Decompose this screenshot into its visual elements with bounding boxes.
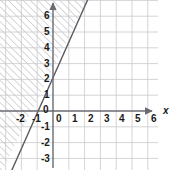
ytick-label--2: -2 [41,138,50,148]
ytick-label--1: -1 [41,122,50,132]
xtick-label-5: 5 [135,114,141,124]
ytick-label-6: 6 [44,11,50,21]
xtick-label-2: 2 [88,114,94,124]
ytick-label-5: 5 [44,27,50,37]
coordinate-plane-svg [0,0,172,174]
ytick-label-1: 1 [44,90,50,100]
graph-canvas: -2 -1 0 1 2 3 4 5 6 6 5 4 3 2 1 0 -1 -2 … [0,0,172,174]
ytick-label-0: 0 [43,105,49,115]
xtick-label-4: 4 [119,114,125,124]
xtick-label--1: -1 [32,114,41,124]
xtick-label-0: 0 [56,114,62,124]
xtick-label--2: -2 [16,114,25,124]
ytick-label-2: 2 [44,74,50,84]
xtick-label-6: 6 [151,114,157,124]
xtick-label-1: 1 [72,114,78,124]
ytick-label-4: 4 [44,43,50,53]
ytick-label-3: 3 [44,59,50,69]
ytick-label--3: -3 [41,154,50,164]
xtick-label-3: 3 [104,114,110,124]
x-axis-label: x [163,106,169,116]
